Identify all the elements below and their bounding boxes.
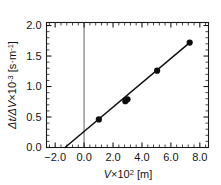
x-axis-title: V×102 [m] [104,168,153,181]
y-tick-label: 0.0 [26,141,41,153]
data-point [96,116,102,122]
y-tick-label: 1.5 [26,50,41,62]
chart-figure: −2.00.02.04.06.08.0 0.00.51.01.52.0 V×10… [0,0,221,185]
x-tick-label: 2.0 [105,151,120,163]
x-tick-label: 6.0 [163,151,178,163]
x-tick-label: 8.0 [192,151,207,163]
x-tick-label: −2.0 [44,151,66,163]
scatter-plot: −2.00.02.04.06.08.0 0.00.51.01.52.0 V×10… [0,0,221,185]
y-tick-label: 1.0 [26,80,41,92]
y-tick-label: 0.5 [26,111,41,123]
data-point [124,96,130,102]
x-tick-label: 4.0 [134,151,149,163]
data-point [154,68,160,74]
x-tick-label: 0.0 [76,151,91,163]
data-point [187,40,193,46]
y-axis-title: Δt/ΔV×10-3 [s·m-1] [6,41,19,130]
y-tick-label: 2.0 [26,19,41,31]
